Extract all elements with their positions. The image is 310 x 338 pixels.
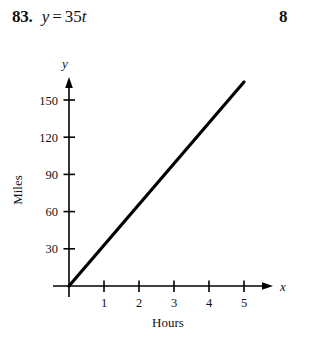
y-tick-label-150: 150	[39, 94, 58, 108]
x-tick-label-4: 4	[206, 296, 213, 310]
equation-coefficient: 35	[65, 7, 82, 26]
x-axis-variable-label: x	[279, 279, 286, 294]
problem-number: 83.	[12, 7, 33, 26]
y-tick-label-120: 120	[39, 131, 58, 145]
y-tick-label-90: 90	[46, 168, 59, 182]
equation-operator: =	[49, 7, 65, 26]
x-axis-arrowhead	[262, 282, 273, 290]
x-tick-label-3: 3	[171, 296, 177, 310]
data-line-series-1	[69, 82, 244, 286]
x-tick-label-2: 2	[136, 296, 142, 310]
x-tick-label-1: 1	[101, 296, 107, 310]
graph-figure: 150 120 90 60 30 1 2 3 4 5 y x Miles	[0, 44, 310, 338]
y-tick-label-30: 30	[46, 242, 59, 256]
problem-equation: y=35t	[42, 7, 87, 26]
y-axis-arrowhead	[65, 77, 73, 88]
y-tick-label-60: 60	[46, 205, 59, 219]
x-axis-title: Hours	[152, 315, 184, 330]
problem-statement: 83.y=35t	[12, 6, 87, 28]
next-problem-number: 8	[279, 6, 289, 28]
x-axis-tick-labels: 1 2 3 4 5	[101, 296, 247, 310]
y-axis-title: Miles	[10, 175, 25, 205]
x-tick-label-5: 5	[241, 296, 247, 310]
equation-variable: t	[82, 7, 87, 26]
y-axis-variable-label: y	[60, 56, 68, 71]
y-axis-tick-labels: 150 120 90 60 30	[39, 94, 58, 257]
